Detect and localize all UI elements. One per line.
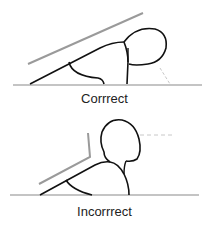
chest-outline	[110, 162, 129, 195]
dashed-reference-line	[160, 68, 170, 84]
head-outline	[101, 120, 140, 162]
arm-outline	[66, 180, 92, 195]
alignment-guide-line	[39, 133, 90, 184]
correct-caption: Corrrect	[0, 91, 209, 106]
incorrect-posture-panel: Incorrrect	[0, 114, 209, 228]
head-outline	[124, 29, 166, 65]
neck-front-outline	[124, 161, 126, 174]
back-outline	[30, 42, 124, 84]
incorrect-caption: Incorrrect	[0, 204, 209, 219]
correct-posture-panel: Corrrect	[0, 0, 209, 114]
arm-outline	[69, 62, 104, 84]
